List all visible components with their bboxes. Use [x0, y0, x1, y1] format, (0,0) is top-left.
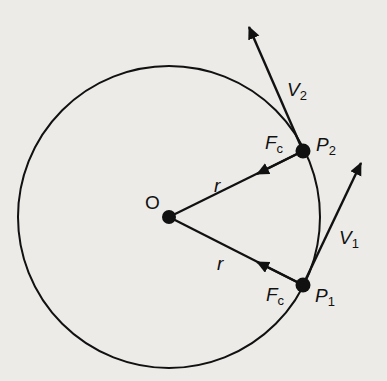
velocity-v1-arrow-icon — [303, 163, 361, 285]
point-p1 — [296, 278, 311, 293]
point-p2 — [296, 144, 311, 159]
label-r-lower: r — [217, 254, 223, 273]
label-r-upper: r — [214, 176, 220, 195]
label-p1: P1 — [315, 286, 335, 308]
diagram-canvas — [0, 0, 387, 381]
label-fc-p1: Fc — [266, 285, 284, 307]
fc-arrow-p1-icon — [257, 262, 303, 285]
label-p2: P2 — [316, 135, 336, 157]
label-fc-p2: Fc — [265, 133, 283, 155]
circular-motion-diagram: O P2 P1 Fc Fc r r V2 V1 — [0, 0, 387, 381]
center-point-o — [162, 210, 176, 224]
center-label-o: O — [145, 193, 160, 212]
label-v2: V2 — [287, 80, 307, 102]
label-v1: V1 — [339, 228, 359, 250]
